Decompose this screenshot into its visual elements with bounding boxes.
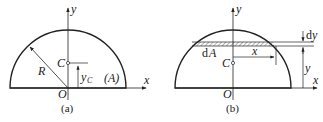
radius-label: R: [37, 64, 46, 78]
centroid-label-a: C: [57, 56, 66, 70]
x-axis-label-b: x: [312, 73, 319, 87]
y-dimension-label: y: [304, 61, 311, 75]
x-dimension-label: x: [251, 44, 258, 58]
strip-label-d: d: [202, 46, 208, 60]
centroid-label-b: C: [222, 56, 231, 70]
yc-label: y: [80, 70, 87, 84]
dy-label-y: y: [311, 28, 318, 42]
strip-label-A: A: [208, 46, 217, 60]
y-axis-label-b: y: [235, 2, 242, 16]
caption-a: (a): [61, 102, 74, 115]
centroid-point-b: [231, 61, 234, 64]
origin-label-b: O: [223, 87, 232, 101]
y-axis-label-a: y: [70, 2, 77, 16]
figure-b: y x d A x C O y d y (b): [175, 2, 319, 115]
origin-label-a: O: [58, 87, 67, 101]
yc-subscript: C: [87, 76, 93, 85]
figure-canvas: y x R C O y C (A) (a) y x d A x: [0, 0, 323, 122]
x-axis-label-a: x: [143, 73, 150, 87]
figure-a: y x R C O y C (A) (a): [10, 2, 150, 115]
area-label: (A): [104, 71, 119, 85]
caption-b: (b): [226, 102, 239, 115]
